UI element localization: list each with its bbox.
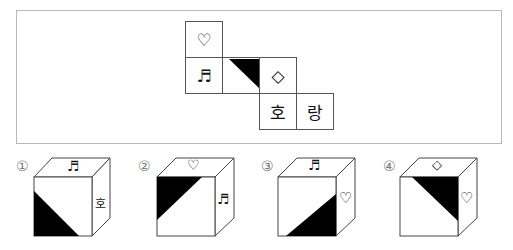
option-number: ① [16,158,29,174]
net-face-rang: 랑 [296,93,334,130]
music-note-icon: ♬ [217,191,230,207]
diamond-icon: ◇ [271,66,284,86]
music-note-icon: ♬ [308,157,321,173]
heart-icon: ♡ [460,189,473,207]
net-face-music: ♬ [185,57,223,94]
option-number: ③ [261,158,274,174]
heart-icon: ♡ [187,157,200,173]
net-face-diamond: ◇ [259,57,297,94]
net-face-heart: ♡ [185,21,223,58]
net-face-ho: 호 [259,93,297,130]
music-note-icon: ♬ [67,158,80,174]
option-number: ④ [383,158,396,174]
ho-character: 호 [270,99,286,124]
diamond-icon: ◇ [432,157,442,172]
black-triangle-icon [223,58,261,95]
net-face-triangle [222,57,260,94]
music-note-icon: ♬ [196,66,211,86]
rang-character: 랑 [307,99,323,124]
ho-character: 호 [95,194,106,211]
heart-icon: ♡ [196,30,211,50]
heart-icon: ♡ [339,189,352,207]
option-number: ② [138,158,151,174]
